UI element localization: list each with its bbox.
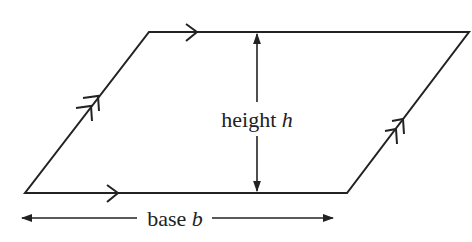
base-variable: b: [192, 206, 203, 231]
base-word: base: [147, 206, 186, 231]
parallel-mark-left-icon: [76, 96, 99, 121]
height-word: height: [221, 107, 276, 132]
base-label: base b: [147, 206, 203, 231]
height-variable: h: [282, 107, 293, 132]
parallelogram-diagram: height h base b: [0, 0, 472, 242]
height-label: height h: [221, 107, 293, 132]
